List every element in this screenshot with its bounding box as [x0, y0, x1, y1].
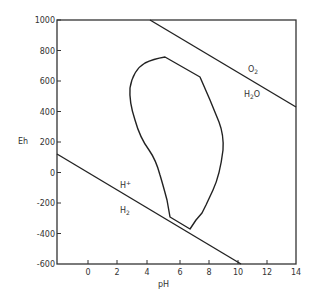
x-tick-label: 14	[291, 268, 301, 277]
x-tick-label: 6	[177, 268, 182, 277]
plot-frame	[57, 20, 296, 264]
natural-waters-field	[130, 57, 223, 229]
y-tick-label: -600	[37, 260, 55, 269]
h2-label: H2	[120, 206, 130, 216]
y-tick-label: 600	[40, 77, 55, 86]
x-tick-label: 2	[114, 268, 119, 277]
y-tick-label: -200	[37, 199, 55, 208]
x-tick-label: 8	[206, 268, 211, 277]
x-tick-label: 0	[85, 268, 90, 277]
y-tick-label: 800	[40, 47, 55, 56]
x-tick-label: 12	[262, 268, 272, 277]
x-tick-label: 10	[233, 268, 243, 277]
y-tick-label: 400	[40, 108, 55, 117]
y-tick-label: 0	[50, 169, 55, 178]
x-tick-label: 4	[144, 268, 149, 277]
h-plus-label: H+	[120, 179, 131, 190]
y-tick-label: -400	[37, 230, 55, 239]
o2-h2o-line	[150, 20, 296, 107]
y-tick-label: 1000	[35, 16, 55, 25]
h-h2-line	[57, 154, 241, 264]
y-tick-labels: 1000 800 600 400 200 0 -200 -400 -600	[35, 16, 55, 269]
y-tick-label: 200	[40, 138, 55, 147]
eh-ph-chart: 1000 800 600 400 200 0 -200 -400 -600 0 …	[0, 0, 313, 301]
x-tick-labels: 0 2 4 6 8 10 12 14	[85, 268, 301, 277]
y-axis-title: Eh	[18, 137, 28, 146]
o2-label: O2	[248, 65, 258, 75]
x-axis-title: pH	[158, 280, 169, 289]
h2o-label: H2O	[244, 90, 260, 100]
